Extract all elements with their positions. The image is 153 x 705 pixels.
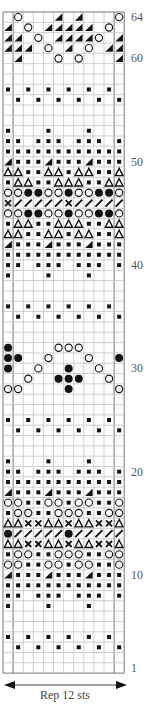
small-square-symbol — [46, 139, 50, 143]
wedge-symbol — [55, 34, 63, 41]
small-square-symbol — [46, 304, 50, 308]
small-square-symbol — [107, 635, 111, 639]
small-square-symbol — [36, 594, 40, 598]
slash-symbol — [106, 200, 113, 207]
small-square-symbol — [67, 635, 71, 639]
triangle-symbol — [4, 230, 12, 237]
triangle-symbol — [115, 520, 123, 527]
open-circle-symbol — [95, 365, 102, 372]
small-square-symbol — [6, 273, 10, 277]
small-square-symbol — [26, 563, 30, 567]
small-square-symbol — [117, 263, 121, 267]
small-square-symbol — [97, 149, 101, 153]
triangle-symbol — [75, 520, 83, 527]
small-square-symbol — [67, 573, 71, 577]
small-square-symbol — [36, 490, 40, 494]
small-square-symbol — [117, 594, 121, 598]
small-square-symbol — [97, 594, 101, 598]
wedge-symbol — [45, 241, 53, 248]
open-circle-symbol — [95, 34, 102, 41]
open-circle-symbol — [55, 55, 62, 62]
wedge-symbol — [75, 13, 83, 20]
wedge-symbol — [4, 34, 12, 41]
triangle-symbol — [45, 230, 53, 237]
open-circle-symbol — [25, 509, 32, 516]
small-square-symbol — [67, 563, 71, 567]
slash-symbol — [95, 200, 102, 207]
small-square-symbol — [107, 573, 111, 577]
small-square-symbol — [107, 563, 111, 567]
small-square-symbol — [77, 242, 81, 246]
small-square-symbol — [67, 480, 71, 484]
triangle-symbol — [45, 520, 53, 527]
filled-circle-symbol — [34, 209, 42, 217]
small-square-symbol — [36, 583, 40, 587]
small-square-symbol — [97, 253, 101, 257]
small-square-symbol — [36, 139, 40, 143]
small-square-symbol — [36, 180, 40, 184]
triangle-symbol — [85, 540, 93, 547]
filled-circle-symbol — [55, 375, 63, 383]
small-square-symbol — [117, 139, 121, 143]
small-square-symbol — [26, 170, 30, 174]
small-square-symbol — [26, 635, 30, 639]
row-label: 20 — [131, 466, 143, 478]
open-circle-symbol — [45, 45, 52, 52]
small-square-symbol — [26, 232, 30, 236]
filled-circle-symbol — [105, 189, 113, 197]
slash-symbol — [35, 200, 42, 207]
slash-symbol — [75, 530, 82, 537]
slash-symbol — [106, 530, 113, 537]
open-circle-symbol — [15, 509, 22, 516]
open-circle-symbol — [75, 344, 82, 351]
triangle-symbol — [75, 220, 83, 227]
small-square-symbol — [87, 459, 91, 463]
small-square-symbol — [67, 170, 71, 174]
open-circle-symbol — [45, 561, 52, 568]
small-square-symbol — [6, 253, 10, 257]
open-circle-symbol — [85, 45, 92, 52]
triangle-symbol — [55, 168, 63, 175]
small-square-symbol — [87, 480, 91, 484]
small-square-symbol — [87, 552, 91, 556]
slash-symbol — [25, 530, 32, 537]
wedge-symbol — [75, 34, 83, 41]
open-circle-symbol — [35, 34, 42, 41]
small-square-symbol — [46, 594, 50, 598]
small-square-symbol — [117, 242, 121, 246]
small-square-symbol — [46, 470, 50, 474]
small-square-symbol — [77, 160, 81, 164]
small-square-symbol — [36, 573, 40, 577]
small-square-symbol — [97, 573, 101, 577]
small-square-symbol — [16, 242, 20, 246]
repeat-caption: Rep 12 sts — [0, 688, 130, 703]
small-square-symbol — [77, 594, 81, 598]
open-circle-symbol — [116, 189, 123, 196]
small-square-symbol — [36, 501, 40, 505]
small-square-symbol — [107, 87, 111, 91]
small-square-symbol — [97, 139, 101, 143]
filled-circle-symbol — [115, 354, 123, 362]
small-square-symbol — [57, 594, 61, 598]
small-square-symbol — [57, 242, 61, 246]
wedge-symbol — [65, 44, 73, 51]
triangle-symbol — [55, 230, 63, 237]
small-square-symbol — [87, 180, 91, 184]
triangle-symbol — [14, 520, 22, 527]
small-square-symbol — [87, 470, 91, 474]
filled-circle-symbol — [24, 189, 32, 197]
small-square-symbol — [117, 480, 121, 484]
small-square-symbol — [46, 511, 50, 515]
small-square-symbol — [77, 470, 81, 474]
small-square-symbol — [16, 98, 20, 102]
small-square-symbol — [117, 583, 121, 587]
slash-symbol — [35, 530, 42, 537]
row-label: 1 — [131, 662, 137, 674]
small-square-symbol — [77, 573, 81, 577]
open-circle-symbol — [105, 509, 112, 516]
small-square-symbol — [67, 253, 71, 257]
wedge-symbol — [115, 44, 123, 51]
small-square-symbol — [97, 563, 101, 567]
triangle-symbol — [65, 179, 73, 186]
small-square-symbol — [87, 594, 91, 598]
